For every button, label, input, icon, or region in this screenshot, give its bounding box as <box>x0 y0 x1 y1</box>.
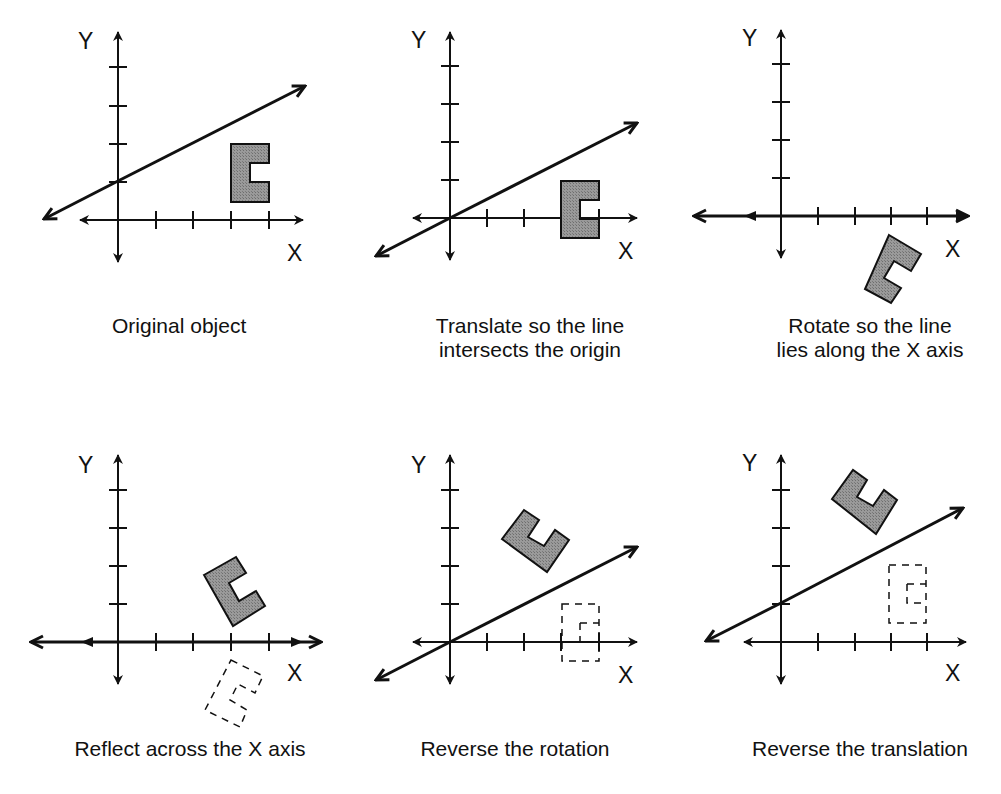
previous-position-outline <box>205 660 263 727</box>
x-axis-label: X <box>945 236 960 263</box>
previous-position-outline <box>562 604 599 661</box>
axes <box>31 455 321 684</box>
x-axis-label: X <box>618 238 633 265</box>
axes <box>694 30 968 258</box>
caption-original: Original object <box>100 314 332 338</box>
c-shape <box>231 144 269 202</box>
x-axis-label: X <box>618 662 633 689</box>
c-shape <box>865 235 921 303</box>
panel-original <box>44 32 305 262</box>
reflection-line <box>44 181 118 219</box>
c-shape <box>561 181 599 238</box>
panel-reverse-rotation <box>376 455 637 684</box>
previous-position-outline <box>889 565 926 623</box>
y-axis-label: Y <box>742 450 757 477</box>
caption-rotate: Rotate so the line lies along the X axis <box>745 314 995 362</box>
x-axis-label: X <box>287 240 302 267</box>
axes <box>413 32 637 260</box>
panel-reverse-translation <box>706 455 966 684</box>
panel-reflect <box>31 455 321 727</box>
transformation-diagram <box>0 0 1001 794</box>
panel-translate <box>376 32 637 260</box>
caption-reflect: Reflect across the X axis <box>40 737 340 761</box>
y-axis-label: Y <box>78 28 93 55</box>
caption-translate: Translate so the line intersects the ori… <box>405 314 655 362</box>
y-axis-label: Y <box>78 452 93 479</box>
c-shape <box>502 510 569 572</box>
panel-rotate <box>694 30 968 303</box>
c-shape <box>832 470 897 534</box>
caption-reverse-rotation: Reverse the rotation <box>400 737 630 761</box>
y-axis-label: Y <box>411 452 426 479</box>
c-shape <box>204 557 265 626</box>
x-axis-label: X <box>287 660 302 687</box>
caption-reverse-translation: Reverse the translation <box>735 737 985 761</box>
x-axis-label: X <box>945 660 960 687</box>
axes <box>413 455 637 684</box>
y-axis-label: Y <box>742 25 757 52</box>
y-axis-label: Y <box>411 27 426 54</box>
ticks <box>772 64 927 225</box>
